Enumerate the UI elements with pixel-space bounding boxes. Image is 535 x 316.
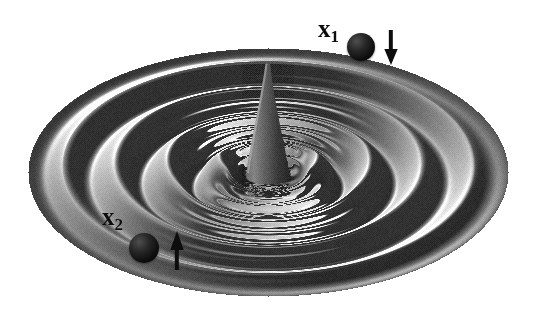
particle-sphere-x1 bbox=[347, 33, 375, 61]
arrow-down-icon-x1 bbox=[382, 30, 400, 66]
rippled-surface-render bbox=[0, 0, 535, 316]
point-label-x2-subscript: 2 bbox=[115, 215, 124, 234]
point-label-x1-subscript: 1 bbox=[331, 27, 340, 46]
point-label-x2-base: x bbox=[102, 203, 115, 230]
point-label-x2: x2 bbox=[102, 204, 123, 233]
point-label-x1-base: x bbox=[318, 15, 331, 42]
point-label-x1: x1 bbox=[318, 16, 339, 45]
surface-plot-figure: x1 x2 bbox=[0, 0, 535, 316]
particle-sphere-x2 bbox=[129, 233, 159, 263]
arrow-up-icon-x2 bbox=[168, 230, 186, 270]
